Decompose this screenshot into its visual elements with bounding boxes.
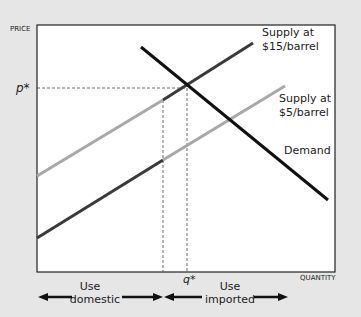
imported-label-line2: imported xyxy=(205,293,255,306)
supply-5-label-line1: Supply at xyxy=(279,92,332,105)
imported-label-line1: Use xyxy=(220,280,241,293)
domestic-label-line1: Use xyxy=(80,280,101,293)
domestic-label-line2: domestic xyxy=(70,293,120,306)
demand-label: Demand xyxy=(284,144,331,157)
p-star-label: p* xyxy=(15,81,30,95)
y-axis-label: PRICE xyxy=(10,25,30,33)
supply-15-label-line2: $15/barrel xyxy=(262,40,319,53)
supply-15-label-line1: Supply at xyxy=(262,26,315,39)
q-star-label: q* xyxy=(183,273,196,286)
supply-demand-chart: PRICE QUANTITY p* q* Supply at $15/barre… xyxy=(0,0,361,317)
supply-5-label-line2: $5/barrel xyxy=(279,106,329,119)
x-axis-label: QUANTITY xyxy=(300,274,336,282)
